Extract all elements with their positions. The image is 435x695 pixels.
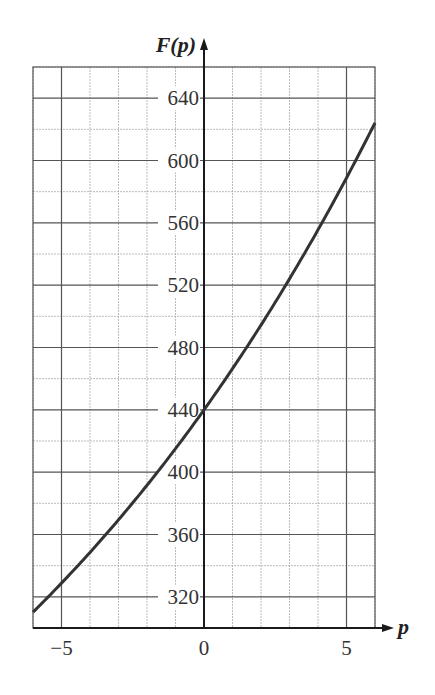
y-tick-label: 480	[168, 336, 200, 360]
y-tick-label: 440	[168, 398, 200, 422]
y-tick-label: 560	[168, 211, 200, 235]
y-tick-label: 520	[168, 273, 200, 297]
chart: 320360400440480520560600640 −505 F(p) p	[0, 0, 435, 695]
x-tick-label: 5	[341, 636, 352, 660]
y-tick-label: 600	[168, 149, 200, 173]
y-tick-label: 320	[168, 585, 200, 609]
y-tick-label: 360	[168, 523, 200, 547]
x-tick-label: 0	[199, 636, 210, 660]
x-axis-arrow-icon	[382, 624, 394, 632]
y-axis-arrow-icon	[200, 38, 208, 50]
x-axis-label: p	[396, 614, 409, 639]
x-tick-label: −5	[50, 636, 72, 660]
y-axis-label: F(p)	[155, 32, 196, 57]
x-tick-labels: −505	[50, 636, 351, 660]
y-tick-label: 640	[168, 86, 200, 110]
y-tick-labels: 320360400440480520560600640	[158, 86, 200, 609]
y-tick-label: 400	[168, 460, 200, 484]
